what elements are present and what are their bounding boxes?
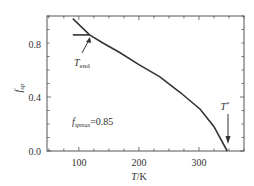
plot-frame <box>47 16 244 151</box>
y-tick-0.4: 0.4 <box>29 92 42 103</box>
svg-text:fsp: fsp <box>13 83 26 93</box>
fspmax-label: fspmax=0.85 <box>72 116 113 128</box>
y-tick-0.0: 0.0 <box>29 146 42 157</box>
tend-label: Tend <box>74 57 90 70</box>
tend-arrow-head-icon <box>86 37 91 43</box>
chart: 100 200 300 0.0 0.4 0.8 T/K fsp Tend T* … <box>0 0 254 186</box>
x-tick-300: 300 <box>192 157 207 168</box>
axis-ticks <box>47 16 244 151</box>
y-axis-label: fsp <box>13 83 26 93</box>
tstar-label: T* <box>220 100 230 112</box>
tstar-arrow-head-icon <box>226 136 231 144</box>
x-tick-100: 100 <box>72 157 87 168</box>
x-tick-200: 200 <box>132 157 147 168</box>
y-tick-0.8: 0.8 <box>29 39 42 50</box>
fsp-curve <box>73 19 227 151</box>
x-axis-label: T/K <box>131 171 147 182</box>
